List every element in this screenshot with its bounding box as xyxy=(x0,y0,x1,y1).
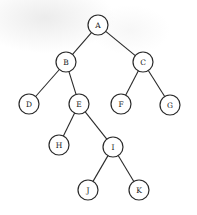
tree-node-h: H xyxy=(49,135,69,155)
node-label: A xyxy=(94,21,101,30)
edge-b-e xyxy=(69,72,76,95)
edge-i-k xyxy=(118,156,134,182)
node-label: J xyxy=(85,186,89,195)
tree-svg: ABCDEFGHIJK xyxy=(0,0,197,215)
node-label: H xyxy=(56,141,63,150)
edge-e-h xyxy=(63,113,74,136)
node-label: G xyxy=(167,101,173,110)
tree-node-d: D xyxy=(19,94,39,114)
edge-e-i xyxy=(85,112,107,139)
tree-node-a: A xyxy=(88,15,108,35)
nodes-layer: ABCDEFGHIJK xyxy=(19,15,180,200)
edge-i-j xyxy=(93,156,108,182)
tree-node-g: G xyxy=(160,95,180,115)
tree-node-b: B xyxy=(56,52,76,72)
node-label: C xyxy=(140,58,146,67)
node-label: E xyxy=(76,100,81,109)
tree-node-c: C xyxy=(133,52,153,72)
tree-node-j: J xyxy=(78,180,98,200)
node-label: F xyxy=(118,100,123,109)
edge-c-g xyxy=(148,70,164,96)
node-label: I xyxy=(112,143,115,152)
tree-diagram: ABCDEFGHIJK xyxy=(0,0,197,215)
tree-node-k: K xyxy=(129,180,149,200)
node-label: B xyxy=(63,58,69,67)
tree-node-e: E xyxy=(69,94,89,114)
edge-c-f xyxy=(126,71,139,95)
node-label: D xyxy=(26,100,32,109)
edge-b-d xyxy=(36,70,60,97)
tree-node-i: I xyxy=(103,137,123,157)
tree-node-f: F xyxy=(111,94,131,114)
edge-a-c xyxy=(106,31,136,55)
edge-a-b xyxy=(73,33,92,55)
node-label: K xyxy=(136,186,142,195)
